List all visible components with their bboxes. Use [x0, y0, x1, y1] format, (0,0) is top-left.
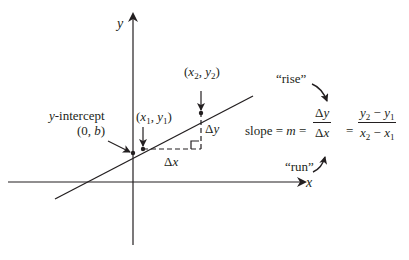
point-1-label: (x1, y1) — [136, 110, 172, 123]
arrow-run — [313, 157, 325, 172]
point-2-label: (x2, y2) — [184, 65, 220, 78]
point-1 — [141, 147, 145, 151]
fraction-coords-numerator: y2 − y1 — [358, 105, 396, 123]
rise-label: “rise” — [276, 72, 306, 85]
right-angle-marker — [191, 141, 199, 149]
fraction-dy-dx: Δy Δx — [313, 105, 331, 141]
y-axis-label: y — [117, 17, 123, 31]
slope-prefix: slope = m = — [245, 124, 306, 137]
delta-y-label: Δy — [205, 122, 219, 135]
x-axis-label: x — [306, 176, 312, 190]
fraction-denominator: Δx — [313, 123, 331, 141]
delta-x-label: Δx — [164, 155, 178, 168]
equals-sign: = — [346, 124, 353, 137]
y-intercept-label: y-intercept — [49, 109, 105, 122]
arrow-y-intercept — [108, 141, 130, 152]
fraction-numerator: Δy — [313, 105, 331, 123]
y-intercept-point — [131, 151, 135, 155]
fraction-coords-denominator: x2 − x1 — [358, 123, 396, 141]
fraction-coords: y2 − y1 x2 − x1 — [358, 105, 396, 141]
y-intercept-coords: (0, b) — [77, 124, 105, 137]
point-2 — [199, 111, 203, 115]
run-label: “run” — [285, 160, 314, 173]
arrow-rise — [312, 84, 327, 101]
